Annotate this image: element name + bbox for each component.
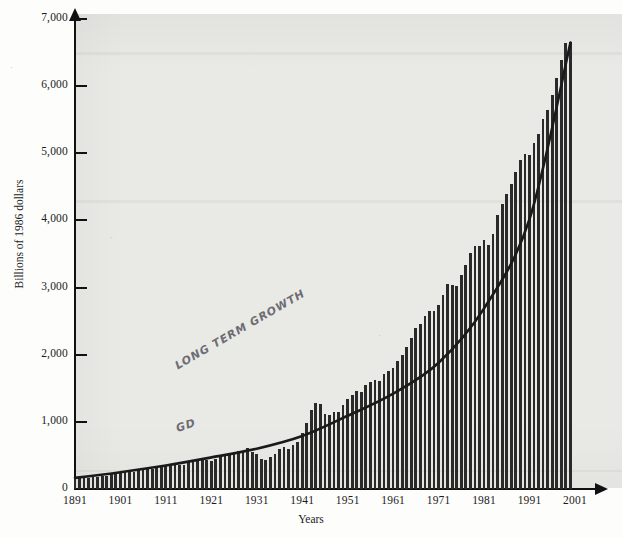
trend-curve-path	[75, 43, 571, 478]
trend-curve	[0, 0, 622, 538]
scan-speck-top-left: ·	[10, 62, 13, 72]
figure-page: 01,0002,0003,0004,0005,0006,0007,000 189…	[0, 0, 622, 538]
scan-speck-mid-left: ·	[110, 232, 113, 242]
scan-speck-mid-right: ·	[378, 330, 381, 340]
